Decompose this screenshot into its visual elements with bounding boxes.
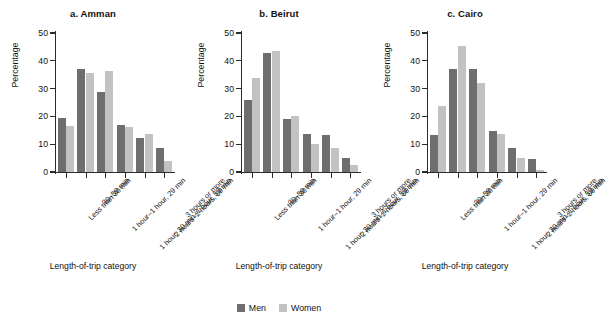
bars-container	[242, 33, 360, 172]
bar-men	[77, 69, 85, 172]
bar-women	[311, 144, 319, 172]
bar-group	[449, 33, 467, 172]
x-axis-line	[241, 172, 361, 173]
bar-group	[303, 33, 321, 172]
bar-men	[303, 134, 311, 172]
panel-title: b. Beirut	[186, 8, 372, 19]
bars-container	[428, 33, 546, 172]
y-axis-tick	[50, 60, 55, 61]
y-axis-title: Percentage	[10, 20, 20, 110]
legend-swatch-icon	[279, 304, 287, 312]
bars-container	[56, 33, 174, 172]
bar-women	[66, 126, 74, 172]
bar-men	[449, 69, 457, 172]
bar-group	[430, 33, 448, 172]
bar-group	[97, 33, 115, 172]
bar-women	[497, 134, 505, 172]
bar-women	[438, 106, 446, 172]
bar-group	[244, 33, 262, 172]
y-axis-tick	[422, 32, 427, 33]
bar-women	[536, 170, 544, 172]
y-axis-tick	[422, 144, 427, 145]
x-axis-line	[427, 172, 547, 173]
bar-women	[252, 78, 260, 172]
y-axis-title: Percentage	[382, 20, 392, 110]
x-axis-title: Length-of-trip category	[372, 261, 558, 271]
bar-men	[136, 138, 144, 172]
bar-group	[58, 33, 76, 172]
x-axis-category-label: 3 hours or more	[555, 176, 598, 219]
chart-panel-2: b. Beirut01020304050PercentageLess than …	[186, 0, 372, 300]
y-axis-tick-label: 10	[2, 139, 49, 149]
x-axis-title: Length-of-trip category	[0, 261, 186, 271]
bar-women	[125, 127, 133, 172]
x-axis-category-label: 30–59 min	[286, 176, 317, 207]
y-axis-tick	[236, 144, 241, 145]
y-axis-tick	[236, 171, 241, 172]
x-axis-title: Length-of-trip category	[186, 261, 372, 271]
bar-men	[430, 135, 438, 172]
bar-women	[331, 148, 339, 172]
bar-women	[458, 46, 466, 172]
x-axis-category-labels: Less than 30 min30–59 min1 hour–1 hour, …	[372, 176, 558, 256]
y-axis-tick	[236, 32, 241, 33]
y-axis-tick	[422, 171, 427, 172]
bar-women	[477, 83, 485, 172]
bar-men	[263, 53, 271, 172]
legend-label: Women	[291, 303, 321, 313]
bar-group	[283, 33, 301, 172]
y-axis-tick	[422, 116, 427, 117]
y-axis-tick	[50, 171, 55, 172]
y-axis-tick	[50, 32, 55, 33]
panel-title: a. Amman	[0, 8, 186, 19]
bar-women	[291, 116, 299, 172]
bar-men	[322, 135, 330, 172]
y-axis-tick	[50, 88, 55, 89]
y-axis-tick-label: 10	[188, 139, 235, 149]
bar-men	[58, 118, 66, 172]
bar-men	[117, 125, 125, 172]
bar-women	[164, 161, 172, 172]
y-axis-tick	[236, 60, 241, 61]
x-axis-category-label: 30–59 min	[472, 176, 503, 207]
bar-men	[469, 69, 477, 172]
bar-women	[105, 71, 113, 172]
bar-women	[145, 134, 153, 172]
y-axis-tick	[236, 88, 241, 89]
bar-men	[489, 131, 497, 172]
bar-men	[283, 119, 291, 172]
bar-women	[350, 165, 358, 172]
x-axis-category-label: 30–59 min	[100, 176, 131, 207]
bar-men	[244, 100, 252, 172]
bar-men	[342, 158, 350, 172]
bar-group	[77, 33, 95, 172]
y-axis-tick	[236, 116, 241, 117]
chart-panel-1: a. Amman01020304050PercentageLess than 3…	[0, 0, 186, 300]
bar-group	[342, 33, 360, 172]
legend-item-men: Men	[237, 303, 266, 313]
legend-item-women: Women	[279, 303, 321, 313]
y-axis-title: Percentage	[196, 20, 206, 110]
bar-men	[156, 148, 164, 172]
bar-group	[489, 33, 507, 172]
chart-panels: a. Amman01020304050PercentageLess than 3…	[0, 0, 558, 300]
y-axis-tick-label: 10	[374, 139, 421, 149]
bar-group	[156, 33, 174, 172]
bar-group	[528, 33, 546, 172]
bar-group	[136, 33, 154, 172]
bar-group	[322, 33, 340, 172]
bar-men	[528, 159, 536, 172]
bar-women	[272, 51, 280, 172]
y-axis-tick	[422, 60, 427, 61]
y-axis-tick-label: 20	[374, 111, 421, 121]
bar-women	[86, 73, 94, 172]
x-axis-line	[55, 172, 175, 173]
bar-men	[97, 92, 105, 172]
bar-women	[517, 158, 525, 172]
panel-title: c. Cairo	[372, 8, 558, 19]
y-axis-tick-label: 20	[188, 111, 235, 121]
legend-label: Men	[249, 303, 266, 313]
chart-panel-3: c. Cairo01020304050PercentageLess than 3…	[372, 0, 558, 300]
chart-legend: MenWomen	[0, 303, 558, 313]
